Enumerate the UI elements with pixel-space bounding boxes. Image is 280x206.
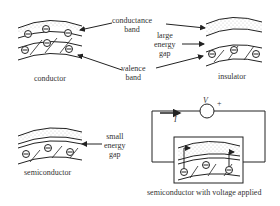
conductor-label: conductor — [34, 74, 66, 83]
voltmeter-icon — [200, 104, 214, 118]
semiconductor-voltage-label: semiconductor with voltage applied — [147, 188, 261, 197]
electron-icon — [23, 145, 74, 158]
plus-sign: + — [217, 99, 222, 108]
voltage-symbol: V — [203, 96, 208, 105]
semiconductor-label: semiconductor — [24, 168, 71, 177]
conductor-diagram — [18, 20, 122, 70]
valence-band-label: valence band — [121, 64, 145, 82]
semiconductor-diagram — [18, 128, 102, 164]
conductance-band-label: conductance band — [112, 16, 152, 34]
circuit-diagram — [152, 104, 265, 183]
small-energy-gap-label: small energy gap — [104, 132, 126, 159]
large-energy-gap-label: large energy gap — [154, 31, 176, 58]
insulator-label: insulator — [218, 72, 246, 81]
current-symbol: I — [174, 115, 177, 124]
